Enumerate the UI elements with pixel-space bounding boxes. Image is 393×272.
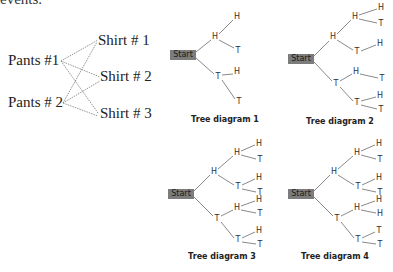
start-node: Start: [168, 189, 194, 199]
tree-node: H: [256, 227, 262, 235]
tree-node: H: [212, 33, 218, 41]
tree-node: T: [236, 183, 241, 191]
tree-node: H: [211, 168, 217, 176]
start-node: Start: [288, 54, 314, 64]
tree-node: T: [378, 241, 383, 249]
tree-node: H: [377, 92, 383, 100]
tree-node: H: [354, 204, 360, 212]
tree-node: H: [234, 13, 240, 21]
tree-node: T: [378, 156, 383, 164]
tree-node: H: [354, 149, 360, 157]
pants-1-label: Pants #1: [8, 53, 59, 68]
tree-caption: Tree diagram 4: [301, 252, 369, 261]
tree-node: T: [236, 47, 241, 55]
tree-node: T: [216, 73, 221, 81]
tree-node: T: [258, 241, 263, 249]
tree-node: T: [258, 210, 263, 218]
tree-node: T: [380, 75, 385, 83]
tree-node: T: [379, 20, 384, 28]
tree-caption: Tree diagram 1: [191, 115, 259, 124]
tree-node: H: [256, 140, 262, 148]
tree-node: T: [335, 215, 340, 223]
tree-node: H: [234, 149, 240, 157]
tree-node: T: [258, 156, 263, 164]
tree-node: H: [376, 174, 382, 182]
tree-node: H: [331, 168, 337, 176]
tree-node: T: [379, 106, 384, 114]
tree-node: T: [236, 236, 241, 244]
tree-node: T: [355, 48, 360, 56]
start-node: Start: [288, 189, 314, 199]
tree-node: T: [334, 80, 339, 88]
tree-node: T: [356, 236, 361, 244]
tree-node: H: [376, 196, 382, 204]
tree-caption: Tree diagram 2: [306, 117, 374, 126]
tree-caption: Tree diagram 3: [188, 252, 256, 261]
tree-node: H: [234, 204, 240, 212]
tree-node: H: [376, 140, 382, 148]
start-node: Start: [170, 50, 196, 60]
shirt-3-label: Shirt # 3: [100, 106, 152, 121]
tree-node: H: [377, 210, 383, 218]
tree-node: H: [234, 68, 240, 76]
tree-node: H: [256, 174, 262, 182]
shirt-1-label: Shirt # 1: [98, 33, 150, 48]
tree-node: T: [355, 99, 360, 107]
tree-node: H: [377, 40, 383, 48]
tree-node: H: [330, 33, 336, 41]
tree-node: H: [353, 68, 359, 76]
tree-node: T: [237, 98, 242, 106]
pants-2-label: Pants # 2: [8, 95, 63, 110]
tree-node: H: [352, 13, 358, 21]
tree-node: H: [256, 196, 262, 204]
tree-node: H: [378, 4, 384, 12]
shirt-2-label: Shirt # 2: [100, 69, 152, 84]
tree-node: T: [377, 227, 382, 235]
tree-node: T: [215, 215, 220, 223]
tree-node: T: [356, 183, 361, 191]
